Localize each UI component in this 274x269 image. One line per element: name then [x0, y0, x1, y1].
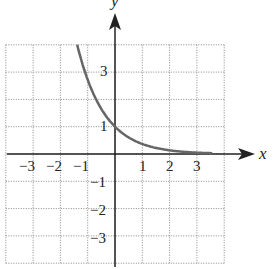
x-tick-label: −3 — [19, 159, 35, 174]
curve-exp-decay — [77, 45, 212, 153]
x-tick-label: 1 — [139, 159, 147, 174]
y-tick-label: 1 — [100, 119, 108, 134]
y-tick-label: −2 — [90, 203, 106, 218]
x-axis-label: x — [259, 145, 267, 162]
y-tick-label: −3 — [90, 231, 106, 246]
x-tick-label: −1 — [73, 159, 89, 174]
x-tick-label: 3 — [193, 159, 201, 174]
y-tick-label: 3 — [100, 64, 108, 79]
x-tick-label: −2 — [46, 159, 62, 174]
x-tick-label: 2 — [166, 159, 174, 174]
y-tick-label: −1 — [90, 175, 106, 190]
y-axis-label: y — [111, 0, 119, 9]
plot-area — [0, 0, 274, 269]
